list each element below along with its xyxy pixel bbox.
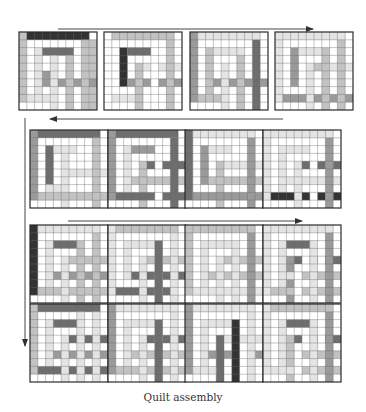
quilt-block (30, 130, 108, 208)
quilt-block (263, 130, 341, 208)
quilt-block (108, 225, 186, 303)
quilt-block (19, 32, 97, 110)
quilt-block (190, 32, 268, 110)
quilt-blocks (19, 32, 353, 382)
row-4 (30, 304, 341, 382)
quilt-block (185, 304, 263, 382)
quilt-block (108, 304, 186, 382)
row-3 (30, 225, 341, 303)
quilt-block (30, 225, 108, 303)
row-1 (19, 32, 353, 110)
quilt-assembly-diagram (0, 0, 366, 412)
quilt-block (185, 225, 263, 303)
quilt-block (275, 32, 353, 110)
row-2 (30, 130, 341, 208)
quilt-block (263, 225, 341, 303)
quilt-block (108, 130, 186, 208)
diagram-caption: Quilt assembly (0, 391, 366, 403)
quilt-block (104, 32, 182, 110)
quilt-block (30, 304, 108, 382)
quilt-block (263, 304, 341, 382)
quilt-block (185, 130, 263, 208)
